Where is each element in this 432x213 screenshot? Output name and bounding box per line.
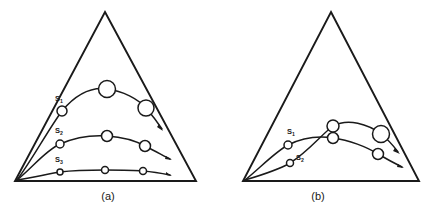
panel-a: S1 S2 S3 [15, 12, 196, 181]
trajectory-node [373, 126, 390, 143]
figure-root: S1 S2 S3 [0, 0, 432, 213]
trajectory-node [56, 140, 64, 148]
trajectory-node [57, 106, 67, 116]
arrow-head-b-s1 [397, 164, 404, 168]
panel-caption-b: (b) [288, 190, 348, 202]
trajectory-a-s1: S1 [17, 81, 163, 181]
trajectory-node [327, 120, 339, 132]
trajectory-node [99, 81, 116, 98]
trajectory-node [284, 141, 292, 149]
trajectory-node [140, 168, 147, 175]
trajectory-node [102, 167, 109, 174]
series-label-a-s2: S2 [55, 126, 63, 136]
arrow-head-a-s2 [165, 156, 172, 160]
trajectory-node [373, 149, 384, 160]
trajectory-node [287, 160, 294, 167]
trajectory-node [102, 131, 113, 142]
series-label-a-s3: S3 [55, 155, 63, 165]
trajectory-node [328, 133, 339, 144]
trajectory-node [140, 141, 151, 152]
series-label-b-s2: S2 [296, 153, 304, 163]
trajectory-node [138, 100, 154, 116]
figure-canvas: S1 S2 S3 [0, 0, 432, 213]
triangle-outline-b [243, 12, 419, 181]
panel-caption-a: (a) [78, 190, 138, 202]
series-label-b-s1: S1 [287, 127, 295, 137]
trajectory-node [57, 169, 63, 175]
panel-b: S1 S2 [243, 12, 419, 181]
arrow-head-a-s3 [166, 172, 172, 176]
series-label-a-s1: S1 [55, 94, 63, 104]
